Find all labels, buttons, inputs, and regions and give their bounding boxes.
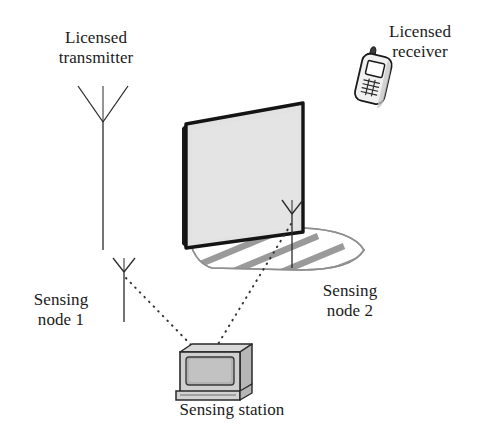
licensed-transmitter-antenna-icon — [78, 86, 128, 250]
figure-canvas: Licensed transmitter Licensed receiver S… — [0, 0, 488, 446]
shadowing-wall — [182, 103, 303, 248]
sensing-station-monitor-icon — [176, 344, 252, 400]
label-sensing-node-1: Sensing node 1 — [2, 290, 120, 330]
label-sensing-node-2: Sensing node 2 — [290, 281, 410, 321]
label-licensed-receiver: Licensed receiver — [358, 22, 482, 62]
link-node1-to-station — [126, 278, 197, 351]
label-licensed-transmitter: Licensed transmitter — [16, 28, 176, 68]
label-sensing-station: Sensing station — [140, 400, 324, 420]
